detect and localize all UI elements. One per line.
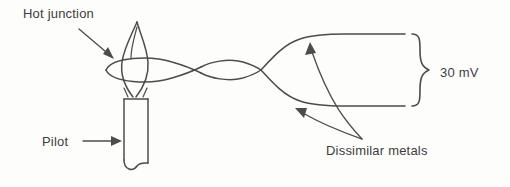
voltage-brace: [412, 34, 429, 106]
dissimilar-metals-arrows: [295, 42, 362, 139]
label-pilot: Pilot: [42, 134, 68, 149]
pilot-burner-tube: [124, 88, 148, 169]
label-dissimilar-metals: Dissimilar metals: [326, 143, 428, 158]
label-hot-junction: Hot junction: [23, 6, 94, 21]
twisted-thermocouple-wires: [106, 58, 261, 82]
hot-junction-arrow: [79, 29, 114, 59]
upper-lead-wire: [261, 34, 405, 70]
pilot-arrow: [83, 136, 122, 146]
lead-wires: [261, 34, 405, 106]
thermocouple-diagram: [0, 0, 510, 187]
figure-canvas: Hot junction Pilot Dissimilar metals 30 …: [0, 0, 510, 187]
label-output-voltage: 30 mV: [440, 65, 479, 80]
